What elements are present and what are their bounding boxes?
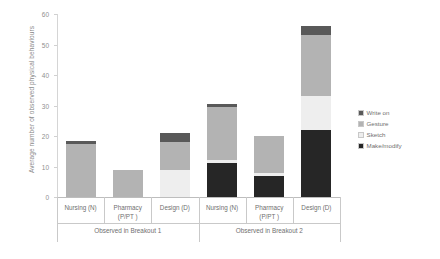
legend-swatch-icon	[358, 132, 364, 138]
y-tick-label: 40	[42, 72, 49, 79]
axis-separator	[57, 197, 58, 242]
y-tick-label: 10	[42, 163, 49, 170]
y-axis-title: Average number of observed physical beha…	[28, 5, 35, 195]
bar-segment	[254, 176, 284, 197]
legend-item[interactable]: Write on	[358, 107, 402, 118]
group-axis-line	[57, 223, 340, 224]
axis-separator	[104, 197, 105, 223]
bar-stack	[160, 133, 190, 197]
bar-stack	[207, 104, 237, 197]
category-label: Design (D)	[151, 197, 198, 213]
y-tick-label: 30	[42, 102, 49, 109]
bar-stack	[254, 136, 284, 197]
bar-stack	[301, 26, 331, 197]
category-label: Nursing (N)	[57, 197, 104, 213]
legend-swatch-icon	[358, 143, 364, 149]
y-tick: 60	[54, 14, 57, 15]
legend-label: Make/modify	[367, 142, 402, 149]
bar-segment	[301, 26, 331, 35]
axis-separator	[151, 197, 152, 223]
legend-item[interactable]: Gesture	[358, 118, 402, 129]
bar-segment	[207, 107, 237, 160]
category-label: Design (D)	[293, 197, 340, 213]
bar-stack	[66, 141, 96, 197]
category-label: Pharmacy(P/PT )	[246, 197, 293, 221]
group-label: Observed in Breakout 2	[199, 227, 341, 234]
axis-separator	[199, 197, 200, 242]
group-label: Observed in Breakout 1	[57, 227, 199, 234]
category-label: Pharmacy(P/PT )	[104, 197, 151, 221]
plot-area: 0102030405060	[57, 14, 340, 197]
legend-item[interactable]: Sketch	[358, 129, 402, 140]
legend-swatch-icon	[358, 121, 364, 127]
bar-segment	[160, 142, 190, 169]
y-tick: 30	[54, 106, 57, 107]
bar-segment	[254, 136, 284, 173]
axis-separator	[340, 197, 341, 242]
y-tick: 10	[54, 167, 57, 168]
bar-segment	[160, 170, 190, 197]
bar-segment	[301, 96, 331, 130]
bar-segment	[207, 163, 237, 197]
category-label: Nursing (N)	[199, 197, 246, 213]
bar-segment	[66, 144, 96, 197]
y-axis-line	[57, 14, 58, 197]
bar-segment	[301, 130, 331, 197]
y-tick: 50	[54, 45, 57, 46]
legend-item[interactable]: Make/modify	[358, 140, 402, 151]
y-tick-label: 50	[42, 41, 49, 48]
stacked-bar-chart: Average number of observed physical beha…	[0, 0, 440, 259]
bar-segment	[113, 170, 143, 197]
legend-swatch-icon	[358, 110, 364, 116]
chart-legend: Write onGestureSketchMake/modify	[358, 107, 402, 151]
axis-separator	[246, 197, 247, 223]
axis-separator	[293, 197, 294, 223]
y-tick: 20	[54, 136, 57, 137]
bar-segment	[301, 35, 331, 96]
y-tick-label: 0	[45, 194, 49, 201]
category-axis: Nursing (N)Pharmacy(P/PT )Design (D)Nurs…	[57, 197, 340, 259]
y-tick-label: 20	[42, 133, 49, 140]
bar-segment	[160, 133, 190, 142]
bar-stack	[113, 170, 143, 197]
legend-label: Write on	[367, 109, 390, 116]
legend-label: Gesture	[367, 120, 389, 127]
y-tick: 40	[54, 75, 57, 76]
legend-label: Sketch	[367, 131, 386, 138]
y-tick-label: 60	[42, 11, 49, 18]
